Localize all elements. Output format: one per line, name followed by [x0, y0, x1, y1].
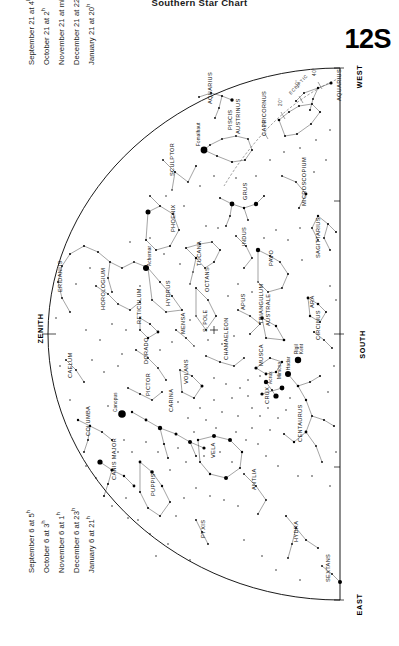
- constellation-lines: [58, 83, 340, 582]
- svg-text:GRUS: GRUS: [242, 182, 248, 200]
- svg-text:PUPPIS: PUPPIS: [150, 473, 156, 496]
- svg-text:RETICULUM: RETICULUM: [136, 288, 142, 324]
- svg-text:PICTOR: PICTOR: [145, 373, 151, 396]
- stars-layer: [55, 81, 342, 584]
- svg-text:APUS: APUS: [240, 293, 246, 310]
- svg-text:AQUARIUS: AQUARIUS: [336, 69, 342, 101]
- svg-text:CRUX: CRUX: [264, 387, 270, 404]
- svg-text:SCULPTOR: SCULPTOR: [169, 143, 175, 176]
- ecliptic-tick-label: 40°: [312, 67, 317, 76]
- star-canopus: [118, 410, 126, 418]
- star-chart-page: Southern Star Chart 12S September 21 at …: [0, 0, 399, 646]
- ecliptic-tick-label: 20°: [278, 97, 283, 106]
- svg-text:SEXTANS: SEXTANS: [325, 554, 331, 582]
- svg-text:ANTLIA: ANTLIA: [251, 468, 257, 490]
- svg-text:COLUMBA: COLUMBA: [85, 406, 91, 436]
- svg-text:PAVO: PAVO: [268, 250, 274, 266]
- star-acrux: [273, 393, 278, 398]
- svg-text:TUCANA: TUCANA: [196, 241, 202, 266]
- svg-text:Fomalhaut: Fomalhaut: [196, 122, 201, 146]
- star-rigil-kent: [295, 357, 301, 363]
- svg-text:AUSTRALE: AUSTRALE: [265, 294, 271, 326]
- south-pole-label: S. POLE: [202, 309, 208, 332]
- svg-text:PHOENIX: PHOENIX: [170, 204, 176, 232]
- south-pole-marker: [210, 326, 218, 334]
- svg-text:CAPRICORNUS: CAPRICORNUS: [261, 91, 267, 136]
- svg-text:CHAMAELEON: CHAMAELEON: [223, 317, 229, 360]
- ecliptic-tick-label: 30°: [295, 79, 300, 88]
- svg-text:VOLANS: VOLANS: [183, 359, 189, 384]
- svg-text:HOROLOGIUM: HOROLOGIUM: [100, 268, 106, 310]
- svg-text:Mimosa: Mimosa: [277, 361, 282, 379]
- svg-text:CARINA: CARINA: [168, 389, 174, 412]
- svg-text:CENTAURUS: CENTAURUS: [297, 404, 303, 442]
- svg-text:Hadar: Hadar: [286, 356, 291, 370]
- svg-text:MUSCA: MUSCA: [258, 344, 264, 366]
- svg-text:ARA: ARA: [309, 295, 315, 308]
- svg-text:Acrux: Acrux: [268, 371, 273, 384]
- meridian-ticks: [334, 68, 344, 600]
- star-hadar: [285, 371, 291, 377]
- horizon-arc: [48, 68, 340, 600]
- svg-text:AQUARIUS: AQUARIUS: [207, 72, 213, 104]
- svg-text:OCTANS: OCTANS: [204, 267, 210, 292]
- svg-text:INDUS: INDUS: [241, 227, 247, 246]
- svg-text:PISCIS: PISCIS: [227, 110, 233, 130]
- star-labels: Fomalhaut Achernar Canopus Acrux Mimosa …: [113, 122, 304, 412]
- svg-text:HYDRUS: HYDRUS: [165, 280, 171, 306]
- svg-text:VELA: VELA: [210, 442, 216, 458]
- svg-text:CAELUM: CAELUM: [67, 353, 73, 378]
- svg-text:CANIS MAJOR: CANIS MAJOR: [111, 438, 117, 480]
- svg-text:CIRCINUS: CIRCINUS: [315, 310, 321, 340]
- star-mimosa: [280, 386, 285, 391]
- star-fomalhaut: [201, 147, 208, 154]
- svg-text:Kent: Kent: [299, 343, 304, 354]
- svg-text:DORADO: DORADO: [143, 337, 149, 364]
- svg-text:Achernar: Achernar: [147, 245, 152, 266]
- svg-text:Canopus: Canopus: [113, 392, 118, 412]
- svg-text:MENSA: MENSA: [180, 312, 186, 334]
- svg-text:AUSTRINUS: AUSTRINUS: [235, 99, 241, 134]
- svg-text:PYXIS: PYXIS: [200, 520, 206, 538]
- sky-map: ECLIPTIC 40° 30° 20° 10°: [0, 0, 399, 646]
- svg-text:MICROSCOPIUM: MICROSCOPIUM: [301, 157, 307, 206]
- ecliptic-line: [224, 78, 340, 186]
- svg-text:TRIANGULUM: TRIANGULUM: [258, 284, 264, 324]
- svg-text:SAGITTARIUS: SAGITTARIUS: [315, 217, 321, 258]
- svg-text:ERIDANUS: ERIDANUS: [57, 260, 63, 292]
- svg-text:HYDRA: HYDRA: [293, 521, 299, 542]
